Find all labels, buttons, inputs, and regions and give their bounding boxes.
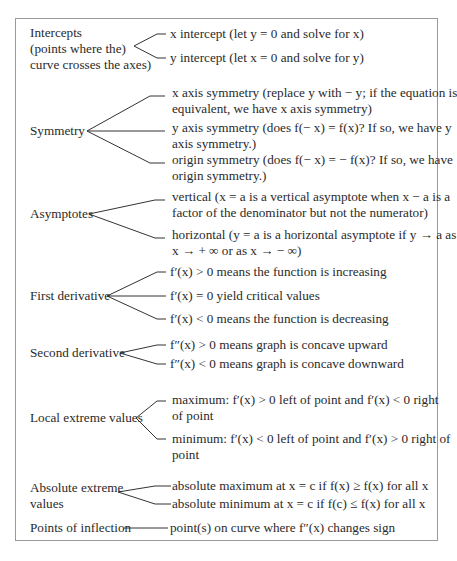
branch-line: [87, 96, 165, 131]
item-absolute-maximum: absolute maximum at x = c if f(x) ≥ f(x)…: [172, 478, 428, 494]
label-asymptotes: Asymptotes: [30, 206, 93, 222]
label-line: values: [30, 496, 123, 512]
branch-line: [118, 492, 171, 504]
text-line: vertical (x = a is a vertical asymptote …: [172, 189, 450, 205]
item-x-axis-symmetry: x axis symmetry (replace y with − y; if …: [172, 85, 457, 117]
text-line: x axis symmetry (replace y with − y; if …: [172, 85, 457, 101]
item-x-intercept: x intercept (let y = 0 and solve for x): [170, 26, 364, 42]
label-symmetry: Symmetry: [30, 123, 85, 139]
text-line: x → + ∞ or as x → − ∞): [172, 243, 456, 259]
text-line: factor of the denominator but not the nu…: [172, 205, 450, 221]
label-absolute-extreme-values: Absolute extreme values: [30, 480, 123, 512]
item-concave-up: f″(x) > 0 means graph is concave upward: [170, 337, 388, 353]
item-local-minimum: minimum: f′(x) < 0 left of point and f′(…: [172, 431, 450, 463]
text-line: horizontal (y = a is a horizontal asympt…: [172, 227, 456, 243]
item-first-derivative-zero: f′(x) = 0 yield critical values: [170, 288, 320, 304]
label-first-derivative: First derivative: [30, 288, 110, 304]
item-first-derivative-positive: f′(x) > 0 means the function is increasi…: [170, 264, 387, 280]
branch-line: [118, 486, 171, 492]
label-points-of-inflection: Points of inflection: [30, 520, 131, 536]
item-y-axis-symmetry: y axis symmetry (does f(− x) = f(x)? If …: [172, 120, 452, 152]
item-horizontal-asymptote: horizontal (y = a is a horizontal asympt…: [172, 227, 456, 259]
label-line: curve crosses the axes): [30, 57, 151, 73]
text-line: equivalent, we have x axis symmetry): [172, 101, 457, 117]
text-line: of point: [172, 408, 438, 424]
branch-line: [87, 131, 165, 163]
label-line: Intercepts: [30, 25, 151, 41]
label-second-derivative: Second derivative: [30, 345, 125, 361]
item-vertical-asymptote: vertical (x = a is a vertical asymptote …: [172, 189, 450, 221]
item-concave-down: f″(x) < 0 means graph is concave downwar…: [170, 356, 404, 372]
branch-line: [120, 345, 166, 353]
label-line: (points where the): [30, 41, 151, 57]
label-intercepts: Intercepts (points where the) curve cros…: [30, 25, 151, 73]
item-absolute-minimum: absolute minimum at x = c if f(c) ≤ f(x)…: [172, 496, 425, 512]
item-inflection-definition: point(s) on curve where f″(x) changes si…: [170, 520, 395, 536]
branch-line: [107, 296, 166, 319]
item-y-intercept: y intercept (let x = 0 and solve for y): [170, 50, 364, 66]
text-line: maximum: f′(x) > 0 left of point and f′(…: [172, 392, 438, 408]
text-line: origin symmetry.): [172, 168, 453, 184]
branch-line: [120, 353, 166, 364]
label-local-extreme-values: Local extreme values: [30, 410, 143, 426]
text-line: y axis symmetry (does f(− x) = f(x)? If …: [172, 120, 452, 136]
label-line: Absolute extreme: [30, 480, 123, 496]
branch-line: [89, 214, 165, 238]
text-line: axis symmetry.): [172, 136, 452, 152]
text-line: origin symmetry (does f(− x) = − f(x)? I…: [172, 152, 453, 168]
text-line: point: [172, 447, 450, 463]
item-origin-symmetry: origin symmetry (does f(− x) = − f(x)? I…: [172, 152, 453, 184]
text-line: minimum: f′(x) < 0 left of point and f′(…: [172, 431, 450, 447]
item-first-derivative-negative: f′(x) < 0 means the function is decreasi…: [170, 311, 389, 327]
branch-line: [89, 200, 165, 214]
item-local-maximum: maximum: f′(x) > 0 left of point and f′(…: [172, 392, 438, 424]
branch-line: [107, 272, 166, 296]
